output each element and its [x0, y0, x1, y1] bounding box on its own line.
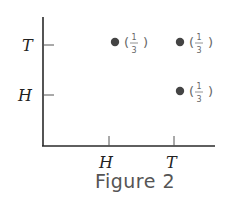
point-marker [111, 38, 119, 46]
close-paren: ) [208, 35, 213, 50]
fraction-denominator: 3 [196, 95, 201, 104]
fraction-denominator: 3 [131, 46, 136, 55]
close-paren: ) [143, 35, 148, 50]
data-point-t-t: ( 1 3 ) [176, 33, 213, 55]
fraction-numerator: 1 [196, 82, 201, 91]
open-paren: ( [189, 35, 194, 50]
fraction-numerator: 1 [131, 33, 136, 42]
data-point-t-h: ( 1 3 ) [176, 82, 213, 104]
figure: T H H T ( 1 3 ) ( 1 3 ) ( 1 3 [0, 0, 235, 216]
point-marker [176, 87, 184, 95]
fraction-numerator: 1 [196, 33, 201, 42]
point-marker [176, 38, 184, 46]
figure-caption: Figure 2 [0, 170, 235, 192]
y-tick-label-h: H [17, 86, 33, 105]
y-tick-label-t: T [22, 36, 34, 55]
open-paren: ( [189, 84, 194, 99]
open-paren: ( [124, 35, 129, 50]
close-paren: ) [208, 84, 213, 99]
fraction-denominator: 3 [196, 46, 201, 55]
data-point-h-t: ( 1 3 ) [111, 33, 148, 55]
